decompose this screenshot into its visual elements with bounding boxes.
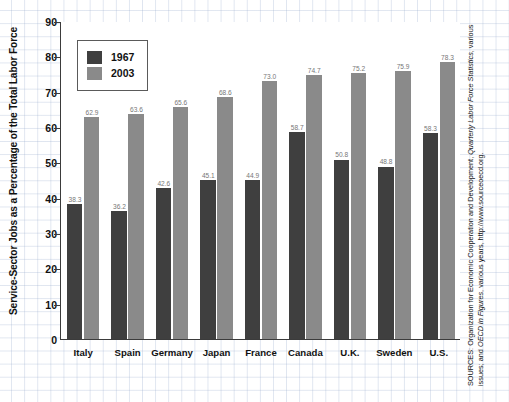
bar-sweden-1967: 48.8 [378,167,394,339]
y-axis-tick-mark [54,57,61,58]
y-axis-tick-label: 50 [27,158,57,169]
source-publication-title: Quarterly Labor Force Statistics [466,52,475,155]
legend-item: 2003 [87,67,134,80]
source-text-part: SOURCES: Organization for Economic Coope… [466,155,475,386]
x-axis-category-label: France [245,347,276,358]
x-axis-category-label: Canada [288,347,323,358]
bar-value-label: 38.3 [69,197,82,204]
bar-value-label: 58.7 [291,125,304,132]
y-axis-tick-mark [54,163,61,164]
bar-spain-1967: 36.2 [111,211,127,339]
legend-item: 1967 [87,51,134,64]
bar-value-label: 68.6 [219,90,232,97]
bar-value-label: 48.8 [380,159,393,166]
bar-value-label: 78.3 [441,55,454,62]
bar-value-label: 45.1 [202,173,215,180]
bar-value-label: 65.6 [174,100,187,107]
bar-us-1967: 58.3 [423,133,439,339]
bar-value-label: 63.6 [130,107,143,114]
bar-germany-2003: 65.6 [173,107,189,339]
bar-uk-1967: 50.8 [334,160,350,339]
chart-figure: 0102030405060708090 38.362.9Italy36.263.… [0,0,509,402]
bar-italy-1967: 38.3 [67,204,83,339]
legend-label: 1967 [111,52,134,63]
plot-area: 0102030405060708090 38.362.9Italy36.263.… [60,22,460,340]
bar-value-label: 36.2 [113,204,126,211]
bar-group: 48.875.9Sweden [372,22,416,339]
x-axis-category-label: U.S. [429,347,448,358]
y-axis-tick-mark [54,269,61,270]
chart-legend: 19672003 [77,40,148,91]
bar-sweden-2003: 75.9 [395,71,411,339]
bar-group: 42.665.6Germany [150,22,194,339]
bar-value-label: 73.0 [263,74,276,81]
bar-group: 58.774.7Canada [283,22,327,339]
bar-value-label: 75.9 [397,64,410,71]
bar-value-label: 58.3 [424,126,437,133]
x-axis-category-label: Japan [203,347,231,358]
y-axis-tick-mark [54,234,61,235]
y-axis-title: Service-Sector Jobs as a Percentage of t… [8,12,24,330]
y-axis-tick-label: 80 [27,52,57,63]
bar-uk-2003: 75.2 [351,73,367,339]
x-axis-category-label: Italy [74,347,93,358]
bar-value-label: 62.9 [86,110,99,117]
bar-japan-2003: 68.6 [217,97,233,339]
bar-value-label: 75.2 [352,66,365,73]
x-axis-category-label: Sweden [376,347,412,358]
y-axis-tick-label: 0 [27,335,57,346]
bar-group: 44.973.0France [239,22,283,339]
x-axis-category-label: Germany [151,347,193,358]
y-axis-tick-label: 90 [27,17,57,28]
y-axis-tick-label: 10 [27,299,57,310]
y-axis-tick-mark [54,93,61,94]
bar-france-2003: 73.0 [262,81,278,339]
bar-group: 58.378.3U.S. [417,22,461,339]
bar-germany-1967: 42.6 [156,188,172,339]
bar-group: 50.875.2U.K. [328,22,372,339]
source-text-part: , various years, http://www.sourceoecd.o… [476,152,485,292]
legend-swatch [87,51,102,64]
x-axis-category-label: U.K. [340,347,359,358]
bar-value-label: 74.7 [308,68,321,75]
y-axis-tick-label: 60 [27,123,57,134]
bar-canada-1967: 58.7 [289,132,305,339]
y-axis-tick-label: 20 [27,264,57,275]
legend-swatch [87,67,102,80]
bar-value-label: 50.8 [335,152,348,159]
y-axis-tick-mark [54,199,61,200]
bar-us-2003: 78.3 [440,62,456,339]
y-axis-tick-mark [54,305,61,306]
bar-group: 45.168.6Japan [194,22,238,339]
bar-spain-2003: 63.6 [128,114,144,339]
y-axis-tick-label: 40 [27,193,57,204]
bar-france-1967: 44.9 [245,180,261,339]
y-axis-tick-mark [54,128,61,129]
bar-value-label: 42.6 [157,181,170,188]
source-publication-title: OECD in Figures [476,292,485,347]
bar-japan-1967: 45.1 [200,180,216,339]
y-axis-tick-mark [54,22,61,23]
source-note: SOURCES: Organization for Economic Coope… [466,10,485,386]
bar-canada-2003: 74.7 [306,75,322,339]
y-axis-tick-label: 70 [27,87,57,98]
x-axis-category-label: Spain [115,347,141,358]
bar-value-label: 44.9 [246,173,259,180]
legend-label: 2003 [111,68,134,79]
y-axis-tick-label: 30 [27,229,57,240]
bar-italy-2003: 62.9 [84,117,100,339]
